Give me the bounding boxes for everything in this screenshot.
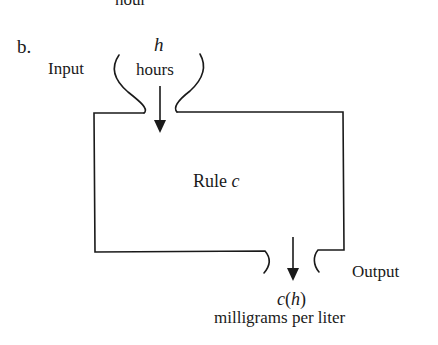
output-unit: milligrams per liter xyxy=(214,309,345,326)
output-arrow-icon xyxy=(287,237,299,281)
rule-word: Rule xyxy=(193,171,227,191)
output-label: Output xyxy=(352,263,399,280)
rule-name: c xyxy=(232,171,240,191)
input-arrow-icon xyxy=(154,86,166,133)
input-funnel-left xyxy=(114,55,145,113)
machine-box-right xyxy=(177,112,344,272)
machine-box xyxy=(94,113,269,273)
rule-label: Rule c xyxy=(193,172,240,190)
output-close-paren: ) xyxy=(300,289,306,309)
output-func: c xyxy=(277,289,285,309)
output-expression: c(h) xyxy=(277,290,306,308)
output-var: h xyxy=(291,289,300,309)
input-funnel-right xyxy=(176,54,204,112)
